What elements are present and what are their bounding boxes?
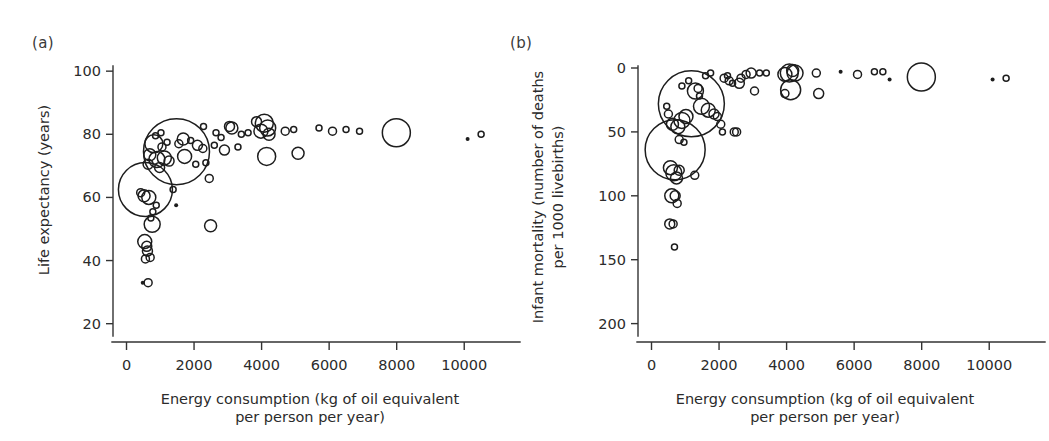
panel-a-x-axis-title-line2: per person per year) bbox=[110, 408, 510, 426]
data-point bbox=[812, 69, 820, 77]
data-point bbox=[174, 203, 178, 207]
data-point bbox=[213, 130, 219, 136]
data-point bbox=[153, 202, 159, 208]
data-point bbox=[193, 161, 199, 167]
x-axis-tick-label: 8000 bbox=[903, 357, 940, 373]
data-point bbox=[218, 134, 224, 140]
data-point bbox=[1003, 75, 1009, 81]
data-point bbox=[141, 281, 145, 285]
y-axis-tick-label: 200 bbox=[598, 316, 626, 332]
data-point bbox=[292, 147, 304, 159]
data-point bbox=[164, 139, 170, 145]
data-point bbox=[158, 130, 164, 136]
y-axis-tick-label: 20 bbox=[83, 316, 101, 332]
panel-b-x-axis-title: Energy consumption (kg of oil equivalent… bbox=[625, 390, 1025, 426]
y-axis-tick-label: 40 bbox=[83, 253, 101, 269]
data-point bbox=[164, 156, 174, 166]
x-axis-tick-label: 4000 bbox=[243, 357, 280, 373]
panel-b: (b) Infant mortality (number of deaths p… bbox=[525, 0, 1049, 441]
panel-a-plot: 204060801000200040006000800010000 bbox=[0, 0, 524, 441]
data-point bbox=[763, 70, 769, 76]
data-point bbox=[329, 127, 337, 135]
data-point bbox=[219, 145, 229, 155]
panel-a-x-axis-title-line1: Energy consumption (kg of oil equivalent bbox=[110, 390, 510, 408]
data-point bbox=[708, 70, 714, 76]
data-point bbox=[316, 125, 322, 131]
data-point bbox=[679, 83, 685, 89]
data-point bbox=[854, 70, 862, 78]
data-point bbox=[694, 84, 702, 92]
y-axis-tick-label: 60 bbox=[83, 189, 101, 205]
data-point bbox=[211, 142, 217, 148]
panel-b-plot: 0501001502000200040006000800010000 bbox=[525, 0, 1049, 441]
data-point bbox=[235, 144, 241, 150]
x-axis-tick-label: 4000 bbox=[768, 357, 805, 373]
data-point bbox=[751, 87, 759, 95]
data-point bbox=[357, 128, 363, 134]
y-axis-tick-label: 100 bbox=[598, 188, 626, 204]
data-point bbox=[281, 127, 289, 135]
x-axis-tick-label: 2000 bbox=[701, 357, 738, 373]
data-point bbox=[757, 70, 763, 76]
data-point bbox=[991, 78, 995, 82]
y-axis-tick-label: 0 bbox=[617, 60, 626, 76]
data-point bbox=[746, 68, 756, 78]
data-point bbox=[880, 69, 886, 75]
y-axis-tick-label: 80 bbox=[83, 126, 101, 142]
data-point bbox=[719, 129, 725, 135]
data-point bbox=[205, 174, 213, 182]
x-axis-tick-label: 6000 bbox=[836, 357, 873, 373]
data-point bbox=[238, 131, 244, 137]
x-axis-tick-label: 10000 bbox=[441, 357, 487, 373]
x-axis-tick-label: 6000 bbox=[311, 357, 348, 373]
data-point bbox=[258, 147, 276, 165]
data-point bbox=[664, 110, 672, 118]
data-point bbox=[226, 122, 238, 134]
data-point bbox=[245, 130, 251, 136]
data-point bbox=[343, 127, 349, 133]
data-point bbox=[144, 279, 152, 287]
y-axis-tick-label: 150 bbox=[598, 252, 626, 268]
data-point bbox=[713, 113, 721, 121]
x-axis-tick-label: 0 bbox=[122, 357, 131, 373]
data-point bbox=[178, 149, 192, 163]
x-axis-tick-label: 2000 bbox=[176, 357, 213, 373]
panel-b-x-axis-title-line2: per person per year) bbox=[625, 408, 1025, 426]
data-point bbox=[291, 127, 297, 133]
x-axis-tick-label: 0 bbox=[647, 357, 656, 373]
data-point bbox=[888, 78, 892, 82]
panel-a-x-axis-title: Energy consumption (kg of oil equivalent… bbox=[110, 390, 510, 426]
panel-b-x-axis-title-line1: Energy consumption (kg of oil equivalent bbox=[625, 390, 1025, 408]
y-axis-tick-label: 50 bbox=[608, 124, 626, 140]
data-point bbox=[671, 244, 677, 250]
data-point bbox=[839, 70, 843, 74]
data-point bbox=[150, 209, 156, 215]
data-point bbox=[871, 69, 877, 75]
data-point bbox=[686, 78, 692, 84]
x-axis-tick-label: 8000 bbox=[378, 357, 415, 373]
data-point bbox=[814, 89, 824, 99]
data-point bbox=[201, 123, 207, 129]
data-point bbox=[478, 131, 484, 137]
data-point bbox=[144, 216, 160, 232]
data-point bbox=[787, 65, 799, 77]
panel-a: (a) Life expectancy (years) 204060801000… bbox=[0, 0, 524, 441]
data-point bbox=[907, 63, 935, 91]
data-point bbox=[382, 119, 410, 147]
y-axis-tick-label: 100 bbox=[73, 63, 101, 79]
data-point bbox=[664, 103, 670, 109]
data-point bbox=[466, 137, 470, 141]
x-axis-tick-label: 10000 bbox=[966, 357, 1012, 373]
data-point bbox=[205, 220, 217, 232]
